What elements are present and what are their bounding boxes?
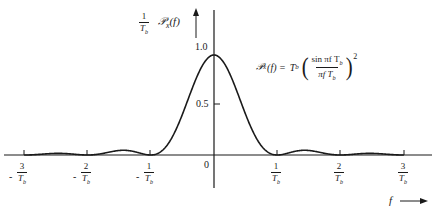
y-arrow-head-icon [193,8,199,16]
neg-sign-1: - [136,171,139,182]
x-axis-label: f [389,195,392,206]
x-tick-label-neg3: 3 Tb [17,162,27,185]
neg-sign-2: - [73,171,76,182]
formula-annotation: 𝒫x (f) = Tb ( sin πf Tb πf Tb ) 2 [256,54,357,81]
y-label-den: Tb [139,22,149,35]
y-tick-label-1: 1.0 [195,42,208,52]
neg-sign-3: - [9,171,12,182]
x-tick-label-2: 2 Tb [334,162,344,185]
y-label-num: 1 [141,12,148,22]
x-arrow-head-icon [420,198,428,204]
x-tick-label-neg1: 1 Tb [144,162,154,185]
y-label-fraction: 1 Tb [139,12,149,35]
x-tick-label-neg2: 2 Tb [81,162,91,185]
formula-fraction: sin πf Tb πf Tb [310,54,345,81]
y-axis-label: 𝒫x(f) [158,16,180,30]
y-tick-label-05: 0.5 [196,99,209,109]
origin-label: 0 [204,160,209,170]
x-tick-label-3: 3 Tb [398,162,408,185]
sinc-squared-plot [0,0,436,211]
x-tick-label-1: 1 Tb [271,162,281,185]
